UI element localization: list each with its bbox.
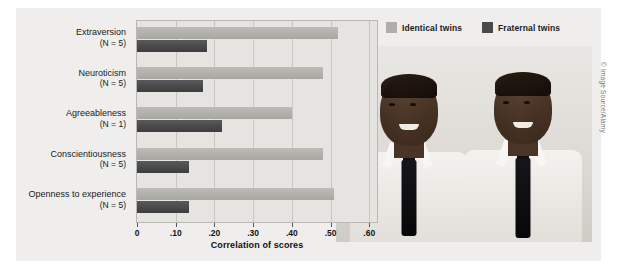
y-axis-trait-name: Extraversion — [76, 27, 126, 38]
y-axis-trait-name: Openness to experience — [28, 189, 126, 200]
eye-left — [389, 103, 395, 106]
eye-left — [503, 101, 509, 104]
x-tick-.10 — [176, 223, 177, 227]
y-axis-sample-size: (N = 5) — [78, 78, 126, 89]
face-shading — [494, 74, 552, 144]
x-tick-.50 — [331, 223, 332, 227]
bar-identical-4[interactable] — [137, 188, 334, 200]
x-tick-label-.30: .30 — [247, 228, 259, 238]
eye-right — [524, 101, 530, 104]
x-tick-0 — [137, 223, 138, 227]
photo-credit: © Image Source/Alamy — [595, 62, 607, 162]
x-axis-title: Correlation of scores — [136, 240, 378, 250]
x-tick-.30 — [253, 223, 254, 227]
y-axis-sample-size: (N = 5) — [76, 38, 126, 49]
x-tick-label-.20: .20 — [208, 228, 220, 238]
chart-legend: Identical twinsFraternal twins — [386, 22, 560, 33]
bar-identical-2[interactable] — [137, 107, 292, 119]
bar-identical-3[interactable] — [137, 148, 323, 160]
y-axis-label-3: Conscientiousness(N = 5) — [50, 149, 126, 170]
twin-right — [464, 72, 582, 242]
face-shading — [380, 76, 438, 146]
y-axis-label-4: Openness to experience(N = 5) — [28, 189, 126, 210]
legend-swatch-fraternal — [482, 22, 493, 33]
legend-label-fraternal: Fraternal twins — [498, 23, 560, 33]
bar-fraternal-0[interactable] — [137, 40, 207, 52]
bar-group-0 — [137, 21, 377, 61]
x-tick-label-.60: .60 — [363, 228, 375, 238]
legend-item-fraternal: Fraternal twins — [482, 22, 560, 33]
bar-group-1 — [137, 61, 377, 101]
bar-fraternal-1[interactable] — [137, 80, 203, 92]
y-axis-trait-name: Conscientiousness — [50, 149, 126, 160]
chart-plot-area — [136, 20, 378, 223]
x-tick-.60 — [369, 223, 370, 227]
necktie — [402, 160, 417, 236]
x-tick-label-.10: .10 — [170, 228, 182, 238]
x-tick-label-.50: .50 — [325, 228, 337, 238]
y-axis-trait-name: Neuroticism — [78, 68, 126, 79]
bar-identical-1[interactable] — [137, 67, 323, 79]
bar-rows — [137, 21, 377, 222]
y-axis-labels: Extraversion(N = 5)Neuroticism(N = 5)Agr… — [0, 20, 131, 223]
mouth — [399, 124, 419, 130]
bar-fraternal-3[interactable] — [137, 161, 189, 173]
x-tick-label-0: 0 — [135, 228, 140, 238]
legend-swatch-identical — [386, 22, 397, 33]
y-axis-label-2: Agreeableness(N = 1) — [66, 108, 126, 129]
x-tick-.40 — [292, 223, 293, 227]
y-axis-sample-size: (N = 5) — [50, 159, 126, 170]
eye-right — [410, 103, 416, 106]
legend-item-identical: Identical twins — [386, 22, 462, 33]
bar-fraternal-2[interactable] — [137, 120, 222, 132]
necktie — [516, 158, 531, 238]
y-axis-sample-size: (N = 1) — [66, 119, 126, 130]
bar-group-3 — [137, 142, 377, 182]
y-axis-sample-size: (N = 5) — [28, 200, 126, 211]
mouth — [513, 122, 533, 128]
y-axis-trait-name: Agreeableness — [66, 108, 126, 119]
bar-group-2 — [137, 101, 377, 141]
y-axis-label-0: Extraversion(N = 5) — [76, 27, 126, 48]
y-axis-label-1: Neuroticism(N = 5) — [78, 68, 126, 89]
figure-root: Identical twinsFraternal twins Extravers… — [0, 0, 617, 269]
bar-group-4 — [137, 182, 377, 222]
x-tick-label-.40: .40 — [286, 228, 298, 238]
x-tick-.20 — [214, 223, 215, 227]
bar-identical-0[interactable] — [137, 27, 338, 39]
legend-label-identical: Identical twins — [402, 23, 462, 33]
bar-fraternal-4[interactable] — [137, 201, 189, 213]
